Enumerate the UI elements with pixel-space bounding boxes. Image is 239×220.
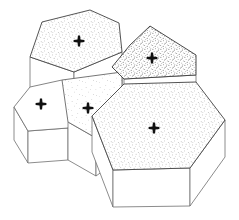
side-face-front [28,128,68,163]
polygonal-prism-diagram: Columnar polygonal prism cluster Line-ar… [0,0,239,220]
side-face-front [113,168,190,207]
figure-root: Columnar polygonal prism cluster Line-ar… [0,0,239,220]
